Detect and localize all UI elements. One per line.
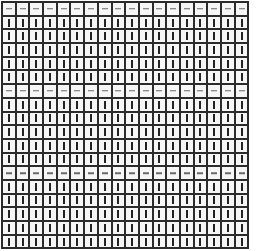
board-cell[interactable]: [17, 126, 31, 140]
board-cell[interactable]: [3, 222, 17, 236]
board-cell[interactable]: [44, 17, 58, 31]
board-cell[interactable]: [17, 99, 31, 113]
board-cell[interactable]: [85, 154, 99, 168]
board-cell[interactable]: [99, 222, 113, 236]
board-cell[interactable]: [154, 222, 168, 236]
board-cell[interactable]: [208, 58, 222, 72]
board-cell[interactable]: [140, 195, 154, 209]
board-cell[interactable]: [167, 85, 181, 99]
board-cell[interactable]: [71, 222, 85, 236]
board-cell[interactable]: [181, 99, 195, 113]
board-cell[interactable]: [167, 167, 181, 181]
board-cell[interactable]: [3, 85, 17, 99]
board-cell[interactable]: [113, 30, 127, 44]
board-cell[interactable]: [181, 126, 195, 140]
board-cell[interactable]: [3, 113, 17, 127]
board-cell[interactable]: [154, 208, 168, 222]
board-cell[interactable]: [126, 3, 140, 17]
board-cell[interactable]: [30, 17, 44, 31]
board-cell[interactable]: [236, 140, 250, 154]
board-cell[interactable]: [236, 195, 250, 209]
board-cell[interactable]: [236, 3, 250, 17]
board-cell[interactable]: [85, 71, 99, 85]
board-cell[interactable]: [99, 3, 113, 17]
board-cell[interactable]: [222, 140, 236, 154]
board-cell[interactable]: [167, 71, 181, 85]
board-cell[interactable]: [44, 126, 58, 140]
board-cell[interactable]: [44, 85, 58, 99]
board-cell[interactable]: [99, 154, 113, 168]
board-cell[interactable]: [113, 17, 127, 31]
board-cell[interactable]: [236, 99, 250, 113]
board-cell[interactable]: [30, 30, 44, 44]
board-cell[interactable]: [99, 113, 113, 127]
board-cell[interactable]: [30, 126, 44, 140]
board-cell[interactable]: [181, 58, 195, 72]
board-cell[interactable]: [181, 140, 195, 154]
board-cell[interactable]: [181, 195, 195, 209]
board-cell[interactable]: [195, 85, 209, 99]
board-cell[interactable]: [236, 30, 250, 44]
board-cell[interactable]: [30, 58, 44, 72]
board-cell[interactable]: [113, 85, 127, 99]
board-cell[interactable]: [222, 154, 236, 168]
board-cell[interactable]: [195, 17, 209, 31]
board-cell[interactable]: [85, 222, 99, 236]
board-cell[interactable]: [85, 44, 99, 58]
board-cell[interactable]: [44, 167, 58, 181]
board-cell[interactable]: [85, 126, 99, 140]
board-cell[interactable]: [17, 140, 31, 154]
board-cell[interactable]: [44, 30, 58, 44]
board-cell[interactable]: [195, 30, 209, 44]
board-cell[interactable]: [154, 126, 168, 140]
board-cell[interactable]: [3, 17, 17, 31]
board-cell[interactable]: [208, 17, 222, 31]
board-cell[interactable]: [236, 222, 250, 236]
board-cell[interactable]: [113, 140, 127, 154]
board-cell[interactable]: [222, 113, 236, 127]
board-cell[interactable]: [167, 44, 181, 58]
board-cell[interactable]: [236, 208, 250, 222]
board-cell[interactable]: [154, 113, 168, 127]
board-cell[interactable]: [99, 236, 113, 250]
board-cell[interactable]: [126, 167, 140, 181]
board-cell[interactable]: [222, 30, 236, 44]
board-cell[interactable]: [85, 85, 99, 99]
board-cell[interactable]: [58, 236, 72, 250]
board-cell[interactable]: [181, 17, 195, 31]
board-cell[interactable]: [58, 44, 72, 58]
board-cell[interactable]: [71, 208, 85, 222]
board-cell[interactable]: [126, 222, 140, 236]
board-cell[interactable]: [3, 167, 17, 181]
board-cell[interactable]: [58, 58, 72, 72]
board-cell[interactable]: [167, 195, 181, 209]
board-cell[interactable]: [58, 208, 72, 222]
board-cell[interactable]: [208, 140, 222, 154]
board-cell[interactable]: [126, 208, 140, 222]
board-cell[interactable]: [140, 126, 154, 140]
board-cell[interactable]: [236, 85, 250, 99]
board-cell[interactable]: [71, 3, 85, 17]
board-cell[interactable]: [58, 222, 72, 236]
board-cell[interactable]: [44, 113, 58, 127]
board-cell[interactable]: [113, 181, 127, 195]
board-cell[interactable]: [222, 99, 236, 113]
board-cell[interactable]: [208, 195, 222, 209]
board-cell[interactable]: [71, 85, 85, 99]
board-cell[interactable]: [85, 99, 99, 113]
board-cell[interactable]: [99, 126, 113, 140]
board-cell[interactable]: [58, 71, 72, 85]
board-cell[interactable]: [99, 167, 113, 181]
board-cell[interactable]: [208, 30, 222, 44]
board-cell[interactable]: [3, 58, 17, 72]
board-cell[interactable]: [236, 44, 250, 58]
board-cell[interactable]: [17, 236, 31, 250]
board-cell[interactable]: [140, 58, 154, 72]
board-cell[interactable]: [30, 236, 44, 250]
board-cell[interactable]: [208, 236, 222, 250]
board-cell[interactable]: [71, 181, 85, 195]
board-cell[interactable]: [126, 58, 140, 72]
board-cell[interactable]: [113, 208, 127, 222]
board-cell[interactable]: [167, 126, 181, 140]
board-cell[interactable]: [17, 30, 31, 44]
